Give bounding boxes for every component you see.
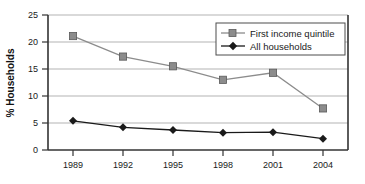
- square-marker-icon: [169, 63, 176, 70]
- y-tick-label-15: 15: [28, 64, 38, 74]
- legend-label-first-income-quintile: First income quintile: [250, 28, 334, 39]
- y-tick-label-5: 5: [33, 118, 38, 128]
- square-marker-icon: [229, 30, 236, 37]
- square-marker-icon: [69, 32, 76, 39]
- x-tick-label-1992: 1992: [113, 160, 133, 170]
- y-tick-label-25: 25: [28, 10, 38, 20]
- square-marker-icon: [219, 76, 226, 83]
- x-tick-label-1989: 1989: [63, 160, 83, 170]
- x-tick-label-1995: 1995: [163, 160, 183, 170]
- line-chart: 25 20 15 10 5 0 1989 1992 1995 1998 2001…: [0, 0, 365, 184]
- legend: First income quintile All households: [216, 23, 345, 55]
- legend-label-all-households: All households: [250, 41, 312, 52]
- y-tick-marks: [42, 15, 48, 150]
- x-tick-label-1998: 1998: [213, 160, 233, 170]
- x-tick-labels: 1989 1992 1995 1998 2001 2004: [63, 160, 333, 170]
- square-marker-icon: [119, 53, 126, 60]
- y-tick-labels: 25 20 15 10 5 0: [28, 10, 38, 155]
- chart-container: 25 20 15 10 5 0 1989 1992 1995 1998 2001…: [0, 0, 365, 184]
- y-tick-label-20: 20: [28, 37, 38, 47]
- square-marker-icon: [319, 105, 326, 112]
- y-tick-label-0: 0: [33, 145, 38, 155]
- x-tick-marks: [73, 150, 323, 156]
- y-tick-label-10: 10: [28, 91, 38, 101]
- x-tick-label-2004: 2004: [313, 160, 333, 170]
- square-marker-icon: [269, 69, 276, 76]
- x-tick-label-2001: 2001: [263, 160, 283, 170]
- y-axis-title: % Households: [5, 48, 16, 117]
